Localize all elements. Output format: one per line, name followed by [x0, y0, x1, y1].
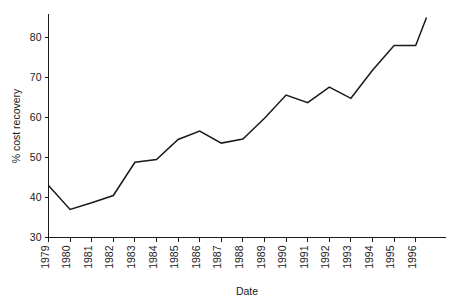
x-tick-label: 1986 [190, 245, 202, 269]
y-tick-label: 40 [30, 191, 42, 203]
y-axis: 304050607080 % cost recovery [10, 14, 49, 243]
x-tick-label: 1983 [125, 245, 137, 269]
x-tick-label: 1989 [255, 245, 267, 269]
x-tick-label: 1995 [384, 245, 396, 269]
x-tick-label: 1988 [233, 245, 245, 269]
y-axis-title: % cost recovery [10, 88, 22, 163]
x-tick-label: 1985 [168, 245, 180, 269]
x-tick-label: 1987 [211, 245, 223, 269]
y-tick-label: 50 [30, 151, 42, 163]
y-tick-label: 80 [30, 31, 42, 43]
data-series-line [49, 18, 427, 210]
x-tick-label: 1984 [147, 245, 159, 269]
x-tick-label: 1993 [341, 245, 353, 269]
x-tick-label: 1982 [103, 245, 115, 269]
x-tick-label: 1980 [60, 245, 72, 269]
x-tick-label: 1981 [82, 245, 94, 269]
x-tick-label: 1979 [39, 245, 51, 269]
x-tick-label: 1996 [406, 245, 418, 269]
x-axis: 1979198019811982198319841985198619871988… [39, 238, 447, 298]
plot-area [49, 18, 427, 210]
x-axis-title: Date [236, 285, 258, 297]
x-tick-label: 1990 [276, 245, 288, 269]
x-tick-labels: 1979198019811982198319841985198619871988… [39, 245, 418, 269]
line-chart-svg: 304050607080 % cost recovery 19791980198… [0, 0, 460, 303]
y-tick-label: 60 [30, 111, 42, 123]
x-tick-label: 1994 [363, 245, 375, 269]
y-tick-marks [45, 38, 49, 238]
y-tick-label: 30 [30, 231, 42, 243]
x-tick-marks [49, 238, 416, 242]
chart-figure: 304050607080 % cost recovery 19791980198… [0, 0, 460, 303]
x-tick-label: 1992 [319, 245, 331, 269]
x-tick-label: 1991 [298, 245, 310, 269]
y-tick-label: 70 [30, 71, 42, 83]
y-tick-labels: 304050607080 [30, 31, 42, 243]
